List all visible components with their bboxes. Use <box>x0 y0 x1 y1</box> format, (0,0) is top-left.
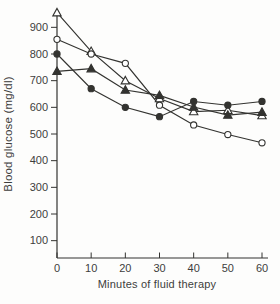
circle-open-marker <box>225 131 231 137</box>
triangle-open-marker <box>53 8 61 16</box>
x-tick-label: 60 <box>256 262 268 274</box>
y-tick-label: 400 <box>30 154 48 166</box>
circle-open-marker <box>259 140 265 146</box>
y-tick-label: 800 <box>30 48 48 60</box>
series-markers-filled-circle <box>54 51 265 120</box>
circle-filled-marker <box>88 86 94 92</box>
triangle-filled-marker <box>258 108 266 116</box>
circle-filled-marker <box>259 98 265 104</box>
y-tick-label: 900 <box>30 21 48 33</box>
x-tick-label: 30 <box>153 262 165 274</box>
circle-filled-marker <box>122 104 128 110</box>
series-markers-filled-triangle <box>53 64 266 118</box>
x-axis-title: Minutes of fluid therapy <box>98 278 217 290</box>
y-tick-label: 500 <box>30 128 48 140</box>
x-tick-label: 20 <box>119 262 131 274</box>
circle-open-marker <box>54 36 60 42</box>
blood-glucose-line-chart: Blood glucose (mg/dl) Minutes of fluid t… <box>0 0 280 304</box>
circle-open-marker <box>88 51 94 57</box>
circle-open-marker <box>191 122 197 128</box>
triangle-filled-marker <box>87 64 95 72</box>
y-tick-label: 200 <box>30 208 48 220</box>
circle-open-marker <box>122 60 128 66</box>
circle-open-marker <box>156 102 162 108</box>
x-tick-label: 0 <box>54 262 60 274</box>
x-tick-label: 40 <box>188 262 200 274</box>
circle-filled-marker <box>54 51 60 57</box>
y-tick-label: 100 <box>30 234 48 246</box>
circle-filled-marker <box>225 102 231 108</box>
x-tick-label: 50 <box>222 262 234 274</box>
x-tick-label: 10 <box>85 262 97 274</box>
y-tick-label: 600 <box>30 101 48 113</box>
y-tick-label: 700 <box>30 74 48 86</box>
circle-filled-marker <box>156 114 162 120</box>
y-axis-title: Blood glucose (mg/dl) <box>2 76 14 191</box>
triangle-filled-marker <box>121 86 129 94</box>
blood-glucose-figure: Blood glucose (mg/dl) Minutes of fluid t… <box>0 0 280 304</box>
y-tick-label: 300 <box>30 181 48 193</box>
